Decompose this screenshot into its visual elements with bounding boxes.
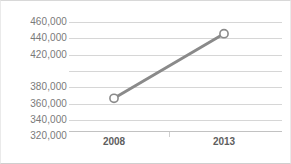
plot-area [69, 22, 282, 131]
data-point-marker [220, 30, 228, 38]
data-series [69, 22, 282, 131]
x-axis-mid-tick [169, 132, 170, 137]
y-tick-label: 460,000 [5, 17, 67, 27]
x-tick-label-2008: 2008 [84, 136, 144, 147]
y-tick-label: 440,000 [5, 33, 67, 43]
y-axis: 460,000 440,000 420,000 380,000 360,000 … [1, 22, 67, 131]
y-tick-label: 340,000 [5, 115, 67, 125]
data-point-marker [110, 94, 118, 102]
y-tick-label: 360,000 [5, 99, 67, 109]
x-tick-label-2013: 2013 [194, 136, 254, 147]
line-chart: 460,000 440,000 420,000 380,000 360,000 … [0, 0, 291, 164]
x-axis-line [69, 131, 282, 132]
y-tick-label: 380,000 [5, 82, 67, 92]
y-tick-label: 420,000 [5, 50, 67, 60]
series-line [114, 34, 224, 99]
y-tick-label: 320,000 [5, 131, 67, 141]
